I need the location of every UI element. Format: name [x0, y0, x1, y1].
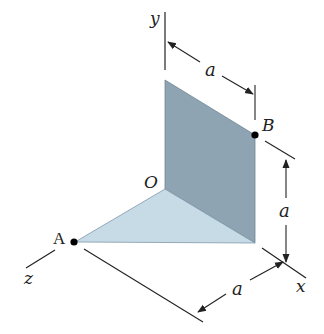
bottom-dim-extension	[84, 249, 203, 322]
right-dim-extension-top	[265, 141, 295, 159]
bottom-dim-arrow-right	[250, 262, 283, 280]
z-axis-label: z	[23, 268, 34, 288]
top-dimension-label: a	[205, 59, 216, 80]
bottom-dimension-label: a	[232, 278, 243, 299]
x-axis	[262, 248, 306, 278]
diagram-canvas: y x z O B A a a a	[0, 0, 324, 334]
point-a-label: A	[53, 229, 66, 248]
z-axis	[26, 250, 55, 268]
origin-label: O	[144, 172, 158, 192]
point-b	[251, 131, 258, 138]
x-axis-label: x	[296, 276, 306, 296]
right-dimension-label: a	[279, 200, 290, 221]
point-b-label: B	[261, 115, 275, 135]
bottom-dim-arrow-left	[198, 294, 226, 312]
y-axis-label: y	[149, 8, 160, 28]
top-dim-arrow-left	[168, 42, 200, 62]
point-a	[70, 238, 77, 245]
top-dim-arrow-right	[222, 76, 253, 94]
